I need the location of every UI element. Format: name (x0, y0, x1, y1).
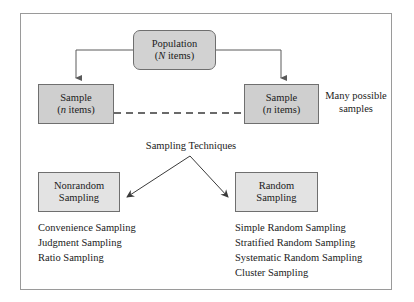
node-random-sampling: Random Sampling (235, 172, 318, 212)
list-item: Stratified Random Sampling (235, 236, 362, 251)
node-population: Population (N items) (133, 30, 216, 70)
node-nonrandom-sampling: Nonrandom Sampling (38, 172, 120, 212)
node-sample-right-line1: Sample (266, 92, 298, 104)
node-sample-right: Sample (n items) (244, 84, 319, 124)
node-population-line2: (N items) (155, 50, 194, 62)
list-item: Systematic Random Sampling (235, 251, 362, 266)
sampling-diagram: Population (N items) Sample (n items) Sa… (0, 0, 414, 302)
sample-right-units: items) (271, 104, 300, 115)
node-sample-left: Sample (n items) (38, 84, 114, 124)
random-methods-list: Simple Random Sampling Stratified Random… (235, 221, 362, 281)
node-sample-left-line1: Sample (60, 92, 92, 104)
list-item: Judgment Sampling (38, 236, 136, 251)
many-possible-samples-line1: Many possible (325, 90, 387, 103)
sampling-techniques-label: Sampling Techniques (131, 140, 251, 153)
list-item: Cluster Sampling (235, 266, 362, 281)
node-sample-left-line2: (n items) (57, 104, 95, 116)
list-item: Simple Random Sampling (235, 221, 362, 236)
population-units: items) (165, 50, 194, 61)
list-item: Convenience Sampling (38, 221, 136, 236)
many-possible-samples-note: Many possible samples (325, 90, 387, 115)
node-random-line1: Random (259, 180, 295, 192)
sample-left-units: items) (66, 104, 95, 115)
nonrandom-methods-list: Convenience Sampling Judgment Sampling R… (38, 221, 136, 266)
node-population-line1: Population (152, 38, 198, 50)
node-random-line2: Sampling (256, 192, 296, 204)
node-nonrandom-line1: Nonrandom (54, 180, 104, 192)
node-nonrandom-line2: Sampling (59, 192, 99, 204)
many-possible-samples-line2: samples (325, 103, 387, 116)
node-sample-right-line2: (n items) (263, 104, 301, 116)
list-item: Ratio Sampling (38, 251, 136, 266)
